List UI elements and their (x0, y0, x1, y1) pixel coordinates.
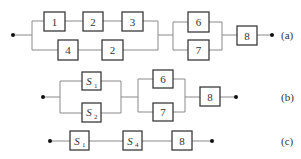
block-6: 6 (188, 12, 209, 32)
block-8: 8 (237, 26, 257, 45)
input-node (48, 139, 52, 143)
block-7: 7 (153, 103, 173, 121)
input-node (41, 95, 45, 99)
svg-text:2: 2 (94, 113, 98, 121)
diagram-c: S 1 S 4 8 (c) (48, 131, 294, 150)
block-s4: S 4 (123, 131, 142, 150)
output-node (210, 139, 214, 143)
block-4: 4 (58, 40, 78, 60)
block-6: 6 (153, 70, 173, 88)
svg-text:7: 7 (196, 44, 202, 56)
diagram-label-b: (b) (281, 91, 294, 104)
svg-text:8: 8 (244, 30, 250, 42)
block-s1: S 1 (70, 131, 89, 150)
svg-text:7: 7 (160, 106, 166, 118)
svg-text:4: 4 (135, 141, 139, 149)
svg-text:1: 1 (82, 141, 86, 149)
diagram-label-c: (c) (281, 135, 294, 148)
svg-text:2: 2 (90, 16, 96, 28)
block-1: 1 (44, 12, 65, 31)
diagram-label-a: (a) (281, 29, 294, 42)
block-2-top: 2 (83, 12, 103, 31)
svg-text:6: 6 (160, 73, 166, 85)
svg-text:4: 4 (65, 44, 71, 56)
output-node (270, 33, 274, 37)
svg-text:S: S (74, 135, 80, 147)
svg-text:8: 8 (179, 135, 185, 147)
block-2-bottom: 2 (102, 40, 123, 60)
diagram-b: S 1 S 2 6 7 8 (b) (41, 70, 294, 122)
block-s1: S 1 (82, 72, 101, 90)
output-node (234, 95, 238, 99)
svg-text:S: S (86, 106, 92, 118)
svg-text:1: 1 (52, 16, 58, 28)
block-s2: S 2 (82, 103, 101, 122)
svg-text:6: 6 (196, 16, 202, 28)
svg-text:3: 3 (130, 16, 136, 28)
block-3: 3 (122, 12, 143, 31)
svg-text:2: 2 (110, 44, 116, 56)
svg-text:S: S (127, 135, 133, 147)
block-8: 8 (200, 87, 220, 106)
svg-text:8: 8 (207, 91, 213, 103)
reliability-block-diagrams: 1 2 3 4 2 6 7 8 (a) (0, 0, 301, 159)
diagram-a: 1 2 3 4 2 6 7 8 (a) (11, 12, 294, 60)
input-node (11, 33, 15, 37)
block-7: 7 (188, 40, 209, 60)
svg-text:1: 1 (94, 82, 98, 90)
svg-text:S: S (86, 75, 92, 87)
block-8: 8 (172, 131, 192, 150)
